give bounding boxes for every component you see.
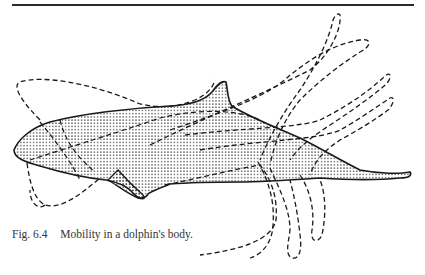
figure-caption: Fig. 6.4 Mobility in a dolphin's body. [12, 228, 193, 240]
dolphin-body [14, 81, 411, 197]
figure-number: Fig. 6.4 [12, 228, 47, 240]
caption-text: Mobility in a dolphin's body. [60, 228, 193, 240]
